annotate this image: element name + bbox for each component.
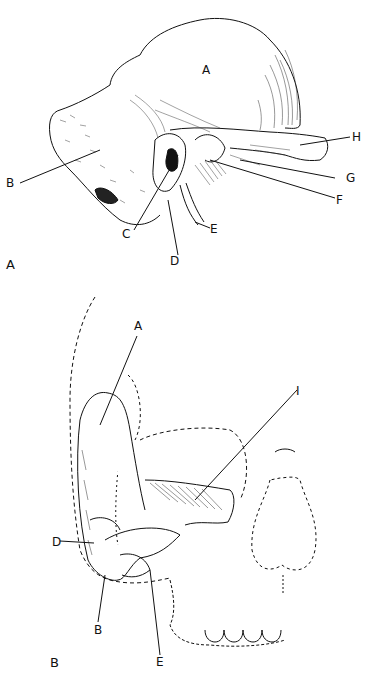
label-c: C xyxy=(122,228,130,240)
temporal-bone-illustration xyxy=(0,0,371,681)
label-b-b: B xyxy=(94,624,102,636)
label-b-mastoid: B xyxy=(6,177,14,189)
panel-label-b: B xyxy=(50,656,59,669)
figure-b-drawing xyxy=(60,297,316,655)
label-b-d: D xyxy=(52,536,61,548)
label-b-i: I xyxy=(296,385,300,397)
label-b-a: A xyxy=(134,320,142,332)
label-f: F xyxy=(336,194,343,206)
label-h: H xyxy=(352,131,361,143)
label-a-squama: A xyxy=(202,64,210,76)
figure-a-drawing xyxy=(20,18,350,255)
panel-label-a: A xyxy=(6,258,15,271)
label-b-e: E xyxy=(156,656,164,668)
label-e: E xyxy=(210,223,218,235)
label-d: D xyxy=(170,255,179,267)
label-g: G xyxy=(346,172,355,184)
